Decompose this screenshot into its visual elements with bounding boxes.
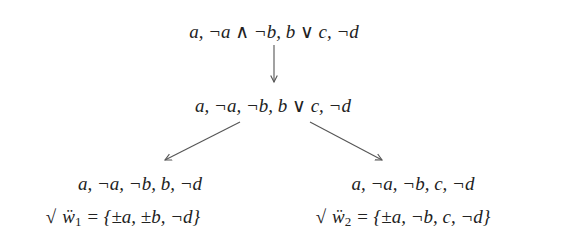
- arrow-middle-to-right: [310, 122, 382, 160]
- right-leaf-world: √ẅ2 = {±a, ¬b, c, ¬d}: [316, 206, 491, 233]
- arrow-middle-to-left: [165, 122, 240, 160]
- world-set: = {±a, ¬b, c, ¬d}: [351, 206, 490, 227]
- middle-node: a, ¬a, ¬b, b ∨ c, ¬d: [195, 95, 351, 117]
- world-set: = {±a, ±b, ¬d}: [81, 206, 200, 227]
- right-leaf-node: a, ¬a, ¬b, c, ¬d: [352, 173, 475, 195]
- left-leaf-world: √ẅ1 = {±a, ±b, ¬d}: [46, 206, 200, 233]
- world-symbol: ẅ: [62, 206, 75, 227]
- checkmark-icon: √: [316, 206, 326, 227]
- right-leaf-formula: a, ¬a, ¬b, c, ¬d: [352, 173, 475, 194]
- left-leaf-formula: a, ¬a, ¬b, b, ¬d: [78, 173, 202, 194]
- middle-formula: a, ¬a, ¬b, b ∨ c, ¬d: [195, 95, 351, 116]
- world-symbol: ẅ: [332, 206, 345, 227]
- left-leaf-node: a, ¬a, ¬b, b, ¬d: [78, 173, 202, 195]
- root-formula: a, ¬a ∧ ¬b, b ∨ c, ¬d: [189, 21, 359, 42]
- checkmark-icon: √: [46, 206, 56, 227]
- root-node: a, ¬a ∧ ¬b, b ∨ c, ¬d: [189, 21, 359, 43]
